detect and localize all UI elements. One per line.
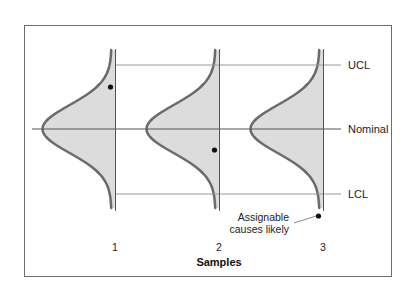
x-axis-title: Samples	[196, 256, 241, 268]
sample-tick-2: 2	[216, 241, 222, 253]
sample-point-3	[316, 213, 321, 218]
ucl-label: UCL	[348, 59, 370, 71]
sample-point-1	[108, 84, 113, 89]
annotation-leader-line	[294, 216, 316, 223]
annotation-line-2: causes likely	[229, 223, 289, 235]
assignable-causes-annotation: Assignable causes likely	[229, 211, 289, 235]
nominal-label: Nominal	[348, 123, 388, 135]
lcl-label: LCL	[348, 188, 368, 200]
annotation-line-1: Assignable	[229, 211, 289, 223]
sample-point-2	[212, 147, 217, 152]
sample-tick-1: 1	[112, 241, 118, 253]
sample-tick-3: 3	[320, 241, 326, 253]
control-chart-plot	[0, 0, 413, 299]
